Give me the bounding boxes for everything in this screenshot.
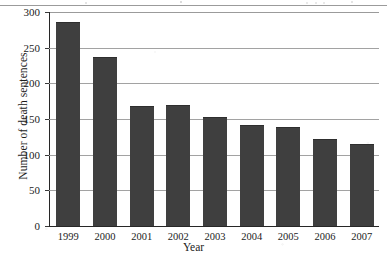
y-axis-tick: 300 [45, 12, 49, 13]
bar [130, 106, 154, 226]
plot-area: 050100150200250300 199920002001200220032… [49, 12, 379, 227]
bar [240, 125, 264, 226]
y-axis-tick-label: 100 [24, 149, 41, 161]
bar [203, 117, 227, 226]
y-axis-tick: 100 [45, 155, 49, 156]
y-axis-tick-label: 250 [24, 42, 41, 54]
bar [313, 139, 337, 226]
x-axis-title: Year [0, 241, 387, 253]
bar [56, 22, 80, 226]
x-axis-line [49, 226, 379, 227]
y-axis-tick-label: 50 [29, 184, 40, 196]
y-axis-tick-label: 0 [35, 220, 41, 232]
bars-group [50, 12, 379, 226]
y-axis-tick: 250 [45, 48, 49, 49]
y-axis-tick: 200 [45, 83, 49, 84]
bar-chart-figure: Number of death sentences 05010015020025… [0, 0, 387, 260]
y-axis-tick: 50 [45, 190, 49, 191]
bar [350, 144, 374, 226]
y-axis-tick-label: 150 [24, 113, 41, 125]
y-axis-tick-label: 200 [24, 77, 41, 89]
y-axis-tick-label: 300 [24, 6, 41, 18]
bar [93, 57, 117, 226]
scan-artifact-rule [0, 5, 387, 6]
y-axis-tick: 0 [45, 226, 49, 227]
bar [276, 127, 300, 226]
y-axis-tick: 150 [45, 119, 49, 120]
bar [166, 105, 190, 226]
